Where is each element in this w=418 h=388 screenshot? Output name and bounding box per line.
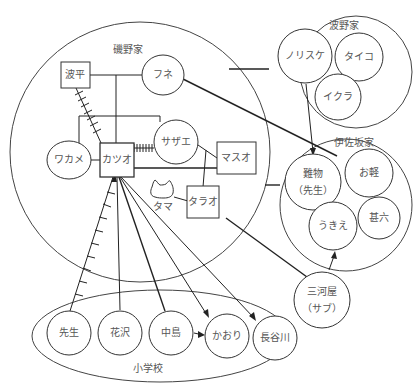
- svg-text:タラオ: タラオ: [188, 196, 218, 207]
- node-ukie[interactable]: うきえ: [309, 202, 357, 250]
- node-katsuo[interactable]: カツオ: [100, 143, 134, 177]
- node-kaori[interactable]: かおり: [205, 314, 249, 358]
- svg-text:花沢: 花沢: [110, 326, 130, 338]
- node-jinroku[interactable]: 甚六: [358, 197, 400, 239]
- conflict-hatch-katsuo-sazae: [134, 144, 152, 152]
- svg-text:タマ: タマ: [153, 201, 173, 212]
- svg-text:三河屋: 三河屋: [307, 286, 337, 297]
- arrow-head: [198, 331, 205, 338]
- node-wakame[interactable]: ワカメ: [47, 141, 91, 179]
- svg-text:お軽: お軽: [359, 167, 379, 178]
- svg-text:うきえ: うきえ: [318, 220, 348, 231]
- svg-text:（サブ）: （サブ）: [302, 302, 342, 314]
- group-label-school: 小学校: [133, 362, 163, 374]
- edge-isono-mikawaya: [226, 218, 307, 277]
- svg-text:（先生）: （先生）: [293, 184, 333, 196]
- edge-fune-okaru: [183, 79, 337, 156]
- node-ikura[interactable]: イクラ: [315, 74, 361, 120]
- svg-text:ノリスケ: ノリスケ: [285, 50, 325, 61]
- node-sensei[interactable]: 先生: [47, 311, 91, 355]
- node-nakajima[interactable]: 中島: [149, 311, 193, 355]
- svg-text:イクラ: イクラ: [323, 91, 353, 102]
- svg-text:長谷川: 長谷川: [260, 332, 290, 343]
- node-tarao[interactable]: タラオ: [187, 186, 219, 218]
- svg-text:フネ: フネ: [153, 69, 173, 80]
- group-label-isaka: 伊佐坂家: [334, 136, 374, 148]
- edge-katsuo-sensei-conflict: [70, 177, 113, 311]
- relationship-diagram: 磯野家 波野家 伊佐坂家 小学校: [0, 0, 418, 388]
- svg-text:カツオ: カツオ: [102, 154, 132, 165]
- svg-text:かおり: かおり: [212, 330, 242, 341]
- node-namihei[interactable]: 波平: [61, 62, 90, 88]
- node-fune[interactable]: フネ: [142, 55, 184, 95]
- node-okaru[interactable]: お軽: [345, 149, 393, 197]
- svg-text:先生: 先生: [59, 326, 79, 338]
- node-taiko[interactable]: タイコ: [335, 33, 383, 81]
- node-mikawaya[interactable]: 三河屋 （サブ）: [294, 272, 350, 328]
- group-label-isono: 磯野家: [113, 43, 143, 55]
- node-hasegawa[interactable]: 長谷川: [253, 316, 297, 360]
- svg-text:甚六: 甚六: [369, 212, 389, 223]
- svg-text:タイコ: タイコ: [344, 51, 374, 62]
- node-sazae[interactable]: サザエ: [154, 120, 198, 164]
- svg-text:サザエ: サザエ: [161, 136, 191, 147]
- node-hanazawa[interactable]: 花沢: [98, 311, 142, 355]
- svg-text:難物: 難物: [303, 167, 323, 179]
- arrow-head: [331, 251, 337, 259]
- node-masuo[interactable]: マスオ: [217, 142, 256, 174]
- cat-icon: [151, 180, 174, 198]
- conflict-hatch-katsuo-sensei: [75, 192, 115, 296]
- node-norisuke[interactable]: ノリスケ: [278, 29, 332, 83]
- svg-text:ワカメ: ワカメ: [54, 154, 84, 165]
- svg-text:マスオ: マスオ: [221, 152, 251, 163]
- edge-tama-tarao: [174, 197, 188, 201]
- node-tama[interactable]: タマ: [151, 180, 174, 212]
- svg-text:中島: 中島: [161, 326, 181, 338]
- svg-text:波平: 波平: [65, 68, 85, 80]
- edge-katsuo-hanazawa: [117, 177, 120, 310]
- edge-sazae-masuo: [198, 145, 217, 158]
- group-label-namino: 波野家: [329, 19, 359, 31]
